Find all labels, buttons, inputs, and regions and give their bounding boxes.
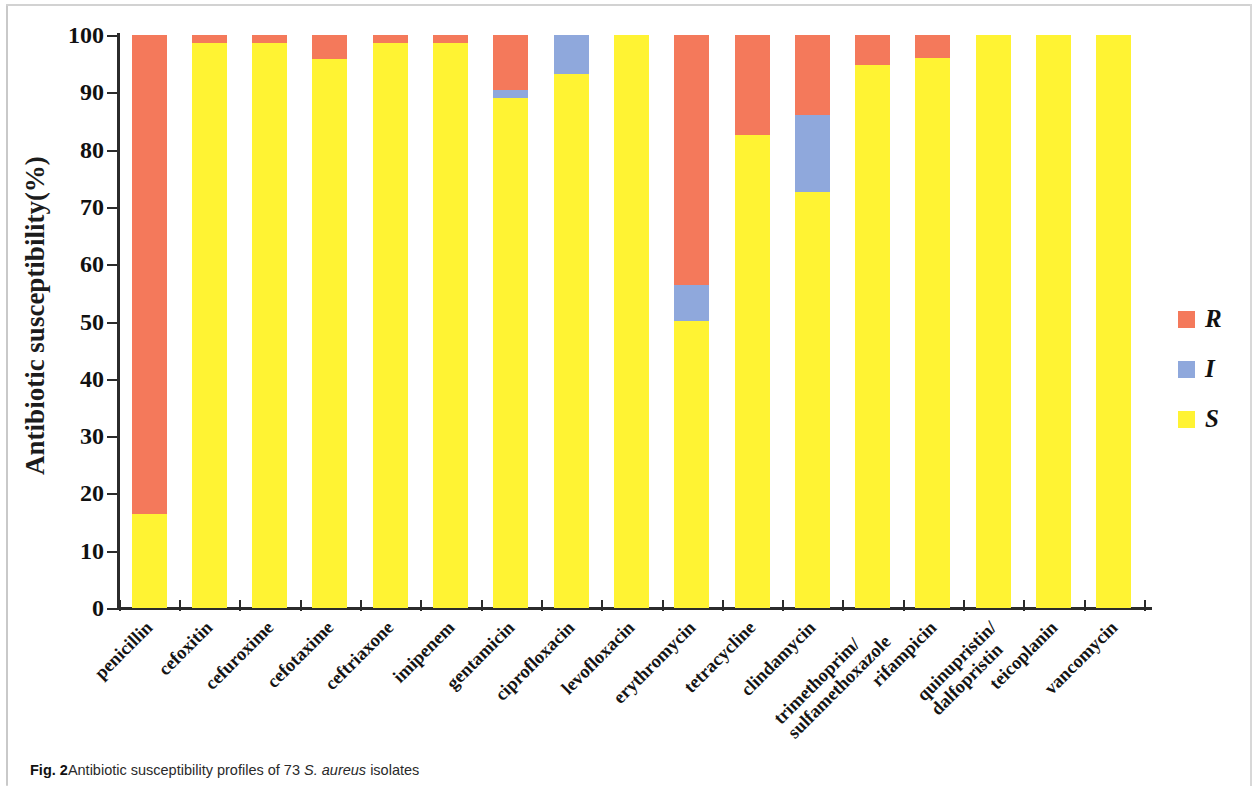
x-tick-mark: [541, 600, 543, 611]
chart-legend: RIS: [1178, 305, 1248, 435]
y-tick-mark-80: [107, 150, 118, 152]
bar-segment-s: [735, 135, 770, 608]
bar-tetracycline: [735, 35, 770, 608]
legend-item-i: I: [1178, 355, 1215, 383]
bar-segment-s: [373, 43, 408, 608]
bar-rifampicin: [915, 35, 950, 608]
x-tick-mark: [300, 600, 302, 611]
legend-label-i: I: [1205, 355, 1215, 383]
bar-levofloxacin: [614, 35, 649, 608]
y-tick-label-80: 80: [38, 136, 104, 163]
y-tick-mark-20: [107, 493, 118, 495]
bar-imipenem: [433, 35, 468, 608]
legend-swatch-i: [1178, 361, 1195, 378]
bar-segment-r: [855, 35, 890, 65]
bar-segment-s: [795, 192, 830, 608]
bar-segment-r: [493, 35, 528, 90]
y-tick-label-20: 20: [38, 480, 104, 507]
x-tick-mark: [903, 600, 905, 611]
bar-segment-r: [192, 35, 227, 43]
x-tick-mark: [239, 600, 241, 611]
bar-ciprofloxacin: [554, 35, 589, 608]
bar-segment-r: [915, 35, 950, 58]
bar-segment-r: [795, 35, 830, 115]
bar-segment-r: [674, 35, 709, 285]
bar-segment-s: [1096, 35, 1131, 608]
x-axis-tick-labels: penicillincefoxitincefuroximecefotaximec…: [118, 612, 1152, 762]
bar-cefuroxime: [252, 35, 287, 608]
y-tick-label-70: 70: [38, 193, 104, 220]
bar-segment-i: [674, 285, 709, 321]
legend-label-s: S: [1205, 405, 1219, 433]
bar-segment-i: [554, 35, 589, 74]
caption-text-before: Antibiotic susceptibility profiles of 73: [68, 762, 304, 778]
bar-segment-i: [493, 90, 528, 98]
y-tick-label-60: 60: [38, 251, 104, 278]
x-tick-mark: [481, 600, 483, 611]
y-tick-mark-90: [107, 92, 118, 94]
y-axis-tick-labels: 0102030405060708090100: [38, 35, 104, 608]
x-tick-mark: [360, 600, 362, 611]
y-tick-mark-30: [107, 436, 118, 438]
x-label-penicillin: penicillin: [91, 618, 157, 684]
bar-segment-s: [132, 514, 167, 608]
bar-teicoplanin: [1036, 35, 1071, 608]
bar-clindamycin: [795, 35, 830, 608]
y-tick-label-30: 30: [38, 423, 104, 450]
figure-number: Fig. 2: [30, 762, 68, 778]
y-tick-mark-50: [107, 322, 118, 324]
x-tick-mark: [1023, 600, 1025, 611]
x-tick-mark: [119, 600, 121, 611]
bar-segment-r: [735, 35, 770, 135]
caption-species-name: S. aureus: [304, 762, 366, 778]
y-tick-mark-60: [107, 264, 118, 266]
legend-swatch-s: [1178, 411, 1195, 428]
y-tick-mark-100: [107, 35, 118, 37]
bar-segment-s: [252, 43, 287, 608]
bar-segment-s: [674, 321, 709, 608]
legend-swatch-r: [1178, 311, 1195, 328]
legend-item-r: R: [1178, 305, 1222, 333]
bar-segment-r: [312, 35, 347, 58]
x-tick-mark: [601, 600, 603, 611]
bar-segment-r: [252, 35, 287, 43]
y-tick-label-50: 50: [38, 308, 104, 335]
x-tick-mark: [179, 600, 181, 611]
x-label-line: penicillin: [91, 618, 157, 684]
y-tick-mark-40: [107, 379, 118, 381]
y-tick-label-100: 100: [38, 22, 104, 49]
x-tick-mark: [662, 600, 664, 611]
bar-segment-s: [192, 43, 227, 608]
figure-chart-area: Antibiotic susceptibility(%) 01020304050…: [0, 0, 1258, 760]
x-tick-mark: [420, 600, 422, 611]
figure-caption: Fig. 2Antibiotic susceptibility profiles…: [30, 762, 830, 778]
bar-segment-s: [493, 98, 528, 608]
bar-segment-s: [1036, 35, 1071, 608]
y-tick-mark-0: [107, 608, 118, 610]
bar-vancomycin: [1096, 35, 1131, 608]
bar-segment-s: [554, 74, 589, 608]
bar-segment-r: [132, 35, 167, 514]
bar-segment-r: [433, 35, 468, 43]
bar-segment-s: [433, 43, 468, 608]
bar-quinupristin--dalfopristin: [976, 35, 1011, 608]
bar-segment-s: [976, 35, 1011, 608]
legend-item-s: S: [1178, 405, 1219, 433]
bar-segment-s: [312, 59, 347, 609]
y-tick-mark-10: [107, 551, 118, 553]
bar-ceftriaxone: [373, 35, 408, 608]
caption-text-after: isolates: [366, 762, 419, 778]
x-tick-mark: [963, 600, 965, 611]
bar-erythromycin: [674, 35, 709, 608]
stacked-bars-container: [118, 35, 1152, 608]
x-tick-mark: [782, 600, 784, 611]
bar-trimethoprim--sulfamethoxazole: [855, 35, 890, 608]
x-tick-mark: [722, 600, 724, 611]
legend-label-r: R: [1205, 305, 1222, 333]
bar-gentamicin: [493, 35, 528, 608]
bar-segment-s: [855, 65, 890, 608]
y-tick-label-90: 90: [38, 79, 104, 106]
y-tick-label-40: 40: [38, 365, 104, 392]
y-tick-label-0: 0: [38, 595, 104, 622]
x-tick-mark: [842, 600, 844, 611]
